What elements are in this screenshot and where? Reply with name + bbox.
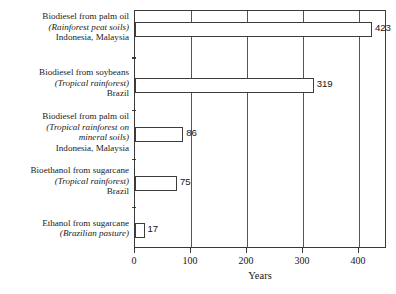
plot-area xyxy=(134,10,386,248)
bar xyxy=(135,127,183,142)
category-label-line: Indonesia, Malaysia xyxy=(42,143,129,154)
x-axis-tick-label: 0 xyxy=(132,255,137,266)
category-label-group: Biodiesel from palm oil(Rainforest peat … xyxy=(0,0,132,248)
x-axis-title: Years xyxy=(134,270,386,281)
bar xyxy=(135,22,372,37)
category-tick xyxy=(132,159,136,161)
x-axis-tick xyxy=(134,248,135,253)
x-axis-tick xyxy=(302,248,303,253)
bar xyxy=(135,176,177,191)
category-label-line: (Brazilian pasture) xyxy=(42,228,129,239)
bar-value-label: 17 xyxy=(148,223,159,234)
bar-value-label: 319 xyxy=(317,78,333,89)
x-axis-tick-label: 200 xyxy=(239,255,254,266)
category-label-line: Indonesia, Malaysia xyxy=(42,32,129,43)
x-axis-tick-label: 400 xyxy=(351,255,366,266)
category-label-line: Brazil xyxy=(31,186,129,197)
category-label: Bioethanol from sugarcane(Tropical rainf… xyxy=(31,165,129,197)
category-label-line: (Tropical rainforest) xyxy=(31,176,129,187)
x-axis-tick xyxy=(190,248,191,253)
gridline-400 xyxy=(359,11,360,247)
category-label-line: Biodiesel from soybeans xyxy=(39,67,129,78)
bar-chart: Biodiesel from palm oil(Rainforest peat … xyxy=(0,0,396,294)
category-label-line: Biodiesel from palm oil xyxy=(42,111,129,122)
category-label-line: (Tropical rainforest on xyxy=(42,122,129,133)
category-label: Biodiesel from soybeans(Tropical rainfor… xyxy=(39,67,129,99)
bar xyxy=(135,78,314,93)
category-label: Biodiesel from palm oil(Rainforest peat … xyxy=(42,11,129,43)
category-label-line: mineral soils) xyxy=(42,132,129,143)
x-axis-tick-label: 100 xyxy=(183,255,198,266)
category-tick xyxy=(132,57,136,59)
bar-value-label: 86 xyxy=(186,127,197,138)
gridline-200 xyxy=(247,11,248,247)
category-tick xyxy=(132,110,136,112)
category-label-line: Ethanol from sugarcane xyxy=(42,218,129,229)
category-label-line: (Rainforest peat soils) xyxy=(42,22,129,33)
x-axis-tick xyxy=(358,248,359,253)
x-axis-tick-label: 300 xyxy=(295,255,310,266)
category-label-line: Biodiesel from palm oil xyxy=(42,11,129,22)
category-label: Ethanol from sugarcane(Brazilian pasture… xyxy=(42,218,129,239)
category-label-line: Brazil xyxy=(39,88,129,99)
bar xyxy=(135,223,145,238)
gridline-300 xyxy=(303,11,304,247)
category-tick xyxy=(132,207,136,209)
bar-value-label: 75 xyxy=(180,176,191,187)
category-label-line: Bioethanol from sugarcane xyxy=(31,165,129,176)
category-label-line: (Tropical rainforest) xyxy=(39,78,129,89)
category-label: Biodiesel from palm oil(Tropical rainfor… xyxy=(42,111,129,153)
bar-value-label: 423 xyxy=(375,22,391,33)
x-axis-tick xyxy=(246,248,247,253)
